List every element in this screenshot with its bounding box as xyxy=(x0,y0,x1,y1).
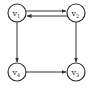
node-v1: v1 xyxy=(8,4,26,22)
node-v2: v2 xyxy=(67,4,85,22)
node-v4: v4 xyxy=(8,63,26,81)
node-v3: v3 xyxy=(67,63,85,81)
directed-graph: v1 v2 v4 v3 xyxy=(0,0,92,91)
